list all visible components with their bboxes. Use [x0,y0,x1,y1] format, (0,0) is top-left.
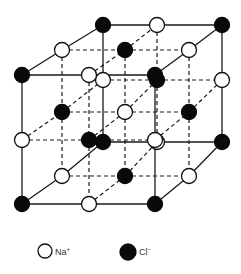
na-ion [55,43,70,58]
na-ion-icon [38,244,52,258]
cl-ion [96,18,111,33]
na-ion [82,197,97,212]
cl-ion [55,105,70,120]
cl-ion [215,18,230,33]
na-ion [150,18,165,33]
na-ion [55,169,70,184]
cl-ion [118,43,133,58]
lattice-atoms [15,18,230,212]
cl-ion [82,133,97,148]
legend: Na+ Cl− [38,244,152,260]
na-ion [148,133,163,148]
legend-item-cl: Cl− [120,244,152,260]
na-ion [82,68,97,83]
na-ion [182,169,197,184]
legend-label-cl: Cl− [139,246,152,257]
cl-ion-icon [120,244,136,260]
cl-ion [15,197,30,212]
cl-ion [148,68,163,83]
legend-item-na: Na+ [38,244,71,258]
cl-ion [215,135,230,150]
na-ion [215,73,230,88]
na-ion [15,133,30,148]
legend-label-na: Na+ [55,246,71,257]
cl-ion [182,105,197,120]
cl-ion [118,169,133,184]
cl-ion [96,135,111,150]
na-ion [118,105,133,120]
nacl-lattice-diagram: Na+ Cl− [0,0,241,274]
na-ion [96,73,111,88]
cl-ion [148,197,163,212]
cl-ion [15,68,30,83]
na-ion [182,43,197,58]
